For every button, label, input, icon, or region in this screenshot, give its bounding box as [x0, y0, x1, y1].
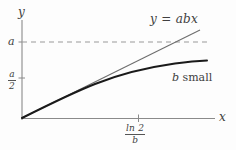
curve-annotation-text: small: [179, 71, 212, 84]
fraction-denominator: b: [125, 136, 145, 145]
y-tick-label-a-over-2: a 2: [8, 70, 16, 92]
curve-annotation: b small: [172, 72, 212, 83]
x-tick-label-ln2-over-b: ln 2 b: [125, 124, 145, 146]
line-equation-annotation: y = abx: [150, 13, 198, 25]
fraction-numerator: a: [8, 70, 16, 79]
fraction-denominator: 2: [8, 82, 16, 91]
figure-canvas: y x a a 2 ln 2 b y = abx b small: [0, 0, 236, 150]
saturating-curve-series: [22, 61, 207, 119]
curve-annotation-symbol: b: [172, 71, 179, 84]
y-tick-label-a: a: [8, 36, 15, 47]
x-axis-label: x: [219, 111, 226, 123]
fraction-numerator: ln 2: [125, 124, 145, 133]
y-axis-label: y: [18, 6, 25, 18]
